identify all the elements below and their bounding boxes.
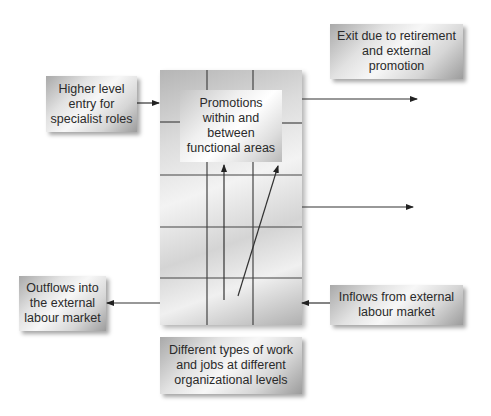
higher-level-entry-label: Higher level entry for specialist roles <box>51 82 133 127</box>
different-types-box: Different types of work and jobs at diff… <box>160 337 302 394</box>
exit-retirement-box: Exit due to retirement and external prom… <box>330 24 463 79</box>
different-types-label: Different types of work and jobs at diff… <box>169 343 293 388</box>
outflows-external-label: Outflows into the external labour market <box>24 281 100 326</box>
inflows-external-box: Inflows from external labour market <box>330 285 463 325</box>
higher-level-entry-box: Higher level entry for specialist roles <box>46 76 137 132</box>
promotions-box: Promotions within and between functional… <box>180 90 282 162</box>
exit-retirement-label: Exit due to retirement and external prom… <box>337 29 456 74</box>
outflows-external-box: Outflows into the external labour market <box>19 276 106 331</box>
promotions-label: Promotions within and between functional… <box>187 96 275 156</box>
inflows-external-label: Inflows from external labour market <box>339 290 454 320</box>
